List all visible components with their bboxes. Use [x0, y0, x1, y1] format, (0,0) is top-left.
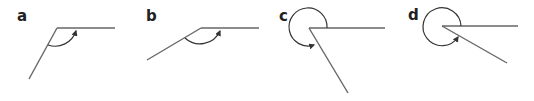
- ray-lower: [29, 28, 57, 79]
- angle-a: [29, 28, 115, 79]
- angle-c: [289, 8, 385, 93]
- panel-label-b: b: [146, 9, 157, 24]
- angle-d: [423, 8, 518, 63]
- panel-label-d: d: [408, 8, 419, 23]
- angle-arc-arrow-icon: [289, 8, 327, 46]
- ray-lower: [442, 26, 507, 63]
- angles-diagram: [0, 0, 534, 101]
- angle-arc-arrow-icon: [185, 31, 220, 44]
- panel-label-a: a: [17, 9, 27, 24]
- ray-lower: [309, 28, 348, 93]
- angle-b: [147, 28, 259, 60]
- ray-lower: [147, 28, 201, 60]
- panel-label-c: c: [279, 9, 288, 24]
- angle-arc-arrow-icon: [48, 31, 76, 46]
